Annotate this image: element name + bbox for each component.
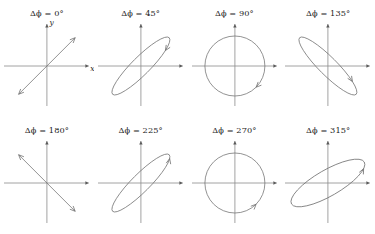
panel-title-5: Δϕ = 180° <box>0 125 94 135</box>
y-axis-tip-7 <box>233 141 236 144</box>
panel-plot-7 <box>188 137 282 229</box>
x-axis-tip-6 <box>179 181 182 184</box>
y-axis-tip-5 <box>45 141 48 144</box>
panel-title-1: Δϕ = 0° <box>0 8 94 18</box>
y-axis-tip-4 <box>326 24 329 27</box>
panel-title-4: Δϕ = 135° <box>281 8 375 18</box>
x-axis-tip-1 <box>85 64 88 67</box>
panel-7: Δϕ = 270° <box>188 117 282 234</box>
y-axis-tip-3 <box>233 24 236 27</box>
y-axis-tip-8 <box>326 141 329 144</box>
polarization-ellipse-figure: Δϕ = 0°xyΔϕ = 45°Δϕ = 90°Δϕ = 135°Δϕ = 1… <box>0 0 375 233</box>
x-axis-tip-7 <box>273 181 276 184</box>
panel-grid: Δϕ = 0°xyΔϕ = 45°Δϕ = 90°Δϕ = 135°Δϕ = 1… <box>0 0 375 233</box>
panel-plot-3 <box>188 20 282 112</box>
panel-6: Δϕ = 225° <box>94 117 188 234</box>
x-axis-tip-5 <box>85 181 88 184</box>
panel-plot-5 <box>0 137 94 229</box>
panel-plot-6 <box>94 137 188 229</box>
y-axis-label: y <box>48 20 54 27</box>
panel-4: Δϕ = 135° <box>281 0 375 117</box>
panel-plot-2 <box>94 20 188 112</box>
panel-plot-1: xy <box>0 20 94 112</box>
panel-5: Δϕ = 180° <box>0 117 94 234</box>
y-axis-tip-6 <box>139 141 142 144</box>
panel-plot-4 <box>281 20 375 112</box>
panel-title-6: Δϕ = 225° <box>94 125 188 135</box>
y-axis-tip-2 <box>139 24 142 27</box>
panel-plot-8 <box>281 137 375 229</box>
panel-title-8: Δϕ = 315° <box>281 125 375 135</box>
x-axis-tip-4 <box>367 64 370 67</box>
x-axis-tip-8 <box>367 181 370 184</box>
x-axis-tip-2 <box>179 64 182 67</box>
panel-1: Δϕ = 0°xy <box>0 0 94 117</box>
panel-3: Δϕ = 90° <box>188 0 282 117</box>
panel-2: Δϕ = 45° <box>94 0 188 117</box>
panel-title-7: Δϕ = 270° <box>188 125 282 135</box>
panel-title-2: Δϕ = 45° <box>94 8 188 18</box>
panel-title-3: Δϕ = 90° <box>188 8 282 18</box>
y-axis-tip-1 <box>45 24 48 27</box>
panel-8: Δϕ = 315° <box>281 117 375 234</box>
x-axis-tip-3 <box>273 64 276 67</box>
